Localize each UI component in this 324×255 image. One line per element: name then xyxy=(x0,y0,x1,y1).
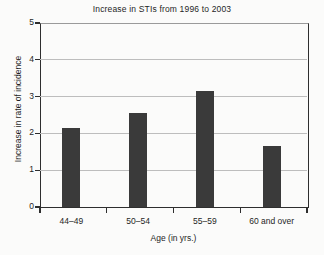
x-axis-title: Age (in yrs.) xyxy=(40,233,307,243)
x-axis-tick xyxy=(173,208,174,213)
y-axis-tick xyxy=(35,133,40,134)
bar xyxy=(263,146,281,207)
y-axis-tick-label: 3 xyxy=(12,92,34,101)
chart-title: Increase in STIs from 1996 to 2003 xyxy=(0,4,324,14)
y-axis-tick-label: 4 xyxy=(12,55,34,64)
x-axis-category-label: 50–54 xyxy=(126,216,150,226)
x-axis-category-label: 60 and over xyxy=(249,216,294,226)
x-axis-category-label: 55–59 xyxy=(193,216,217,226)
gridline xyxy=(40,59,307,60)
bar xyxy=(62,128,80,207)
x-axis-category-label: 44–49 xyxy=(60,216,84,226)
bar-chart-figure: Increase in STIs from 1996 to 2003 Incre… xyxy=(0,0,324,255)
y-axis-tick xyxy=(35,96,40,97)
y-axis-tick-label: 5 xyxy=(12,18,34,27)
y-axis-tick-label: 1 xyxy=(12,165,34,174)
y-axis-tick xyxy=(35,59,40,60)
x-axis-tick xyxy=(106,208,107,213)
y-axis-tick xyxy=(35,170,40,171)
bar xyxy=(129,113,147,207)
bar xyxy=(196,91,214,207)
y-axis-tick-label: 0 xyxy=(12,202,34,211)
y-axis-tick-label: 2 xyxy=(12,128,34,137)
x-axis-tick xyxy=(39,208,40,213)
gridline xyxy=(40,96,307,97)
y-axis-tick xyxy=(35,22,40,23)
x-axis-tick xyxy=(306,208,307,213)
x-axis-tick xyxy=(240,208,241,213)
